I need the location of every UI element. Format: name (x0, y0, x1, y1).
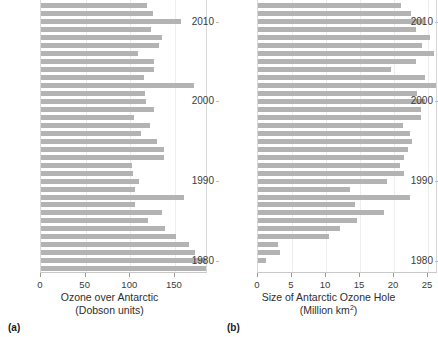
plot-area-b (257, 0, 437, 273)
x-axis-tick-label: 15 (354, 279, 365, 290)
x-axis-tick-label: 20 (388, 279, 399, 290)
bar (258, 59, 416, 64)
y-axis-tick-label: 1980 (192, 256, 214, 266)
bar (41, 242, 189, 247)
bar (41, 139, 157, 144)
bar (41, 210, 162, 215)
gridline (394, 0, 395, 272)
panel-a: 2010200019901980 050100150 Ozone over An… (0, 0, 219, 337)
bar (41, 266, 207, 271)
panel-b: 2010200019901980 0510152025 Size of Anta… (219, 0, 438, 337)
x-axis-tick-label: 25 (422, 279, 433, 290)
bar (258, 51, 434, 56)
x-axis-tick-label: 50 (79, 279, 90, 290)
bar (258, 19, 424, 24)
bar (258, 210, 384, 215)
bar (41, 3, 147, 8)
bar (41, 91, 145, 96)
bar (258, 195, 410, 200)
x-axis-title-b-line1: Size of Antarctic Ozone Hole (219, 291, 438, 304)
bar (258, 187, 350, 192)
x-axis-tick-label: 5 (288, 279, 293, 290)
bar (258, 155, 404, 160)
bar (41, 19, 181, 24)
bar (41, 27, 151, 32)
x-axis-tick (85, 273, 86, 277)
bar (41, 195, 184, 200)
bar (41, 187, 135, 192)
bar (258, 139, 412, 144)
bar (258, 147, 408, 152)
bar (258, 171, 404, 176)
bar (41, 67, 154, 72)
gridline (175, 0, 176, 272)
y-axis-tick-label: 1980 (411, 256, 433, 266)
x-axis-tick (359, 273, 360, 277)
bar (41, 258, 207, 263)
x-axis-tick-label: 10 (320, 279, 331, 290)
bar (258, 43, 422, 48)
bar (41, 107, 154, 112)
bar (258, 67, 391, 72)
bar (41, 171, 133, 176)
bar (258, 11, 411, 16)
bar (41, 179, 139, 184)
gridline (428, 0, 429, 272)
bar (258, 115, 421, 120)
superscript-two: 2 (350, 304, 354, 311)
y-axis-tick-label: 2000 (192, 96, 214, 106)
x-axis-tick (257, 273, 258, 277)
x-axis-tick (174, 273, 175, 277)
bar (41, 202, 135, 207)
bar (258, 202, 355, 207)
panel-tag-b: (b) (227, 322, 240, 333)
bar (41, 250, 195, 255)
bar (41, 163, 132, 168)
bar (41, 123, 150, 128)
y-axis-tick-label: 1990 (411, 176, 433, 186)
panel-tag-a: (a) (8, 322, 20, 333)
bar (258, 218, 357, 223)
bar (41, 11, 153, 16)
y-axis-tick-label: 2010 (411, 17, 433, 27)
x-axis-tick-label: 0 (254, 279, 259, 290)
x-axis-tick-label: 0 (37, 279, 42, 290)
x-axis-tick (291, 273, 292, 277)
bar (258, 258, 266, 263)
bar (258, 179, 387, 184)
bar (258, 3, 401, 8)
bar (41, 43, 159, 48)
bar (258, 75, 425, 80)
bar (258, 27, 416, 32)
x-axis-title-a-line1: Ozone over Antarctic (0, 291, 219, 304)
figure-container: 2010200019901980 050100150 Ozone over An… (0, 0, 438, 337)
bar (258, 107, 421, 112)
bar (41, 226, 165, 231)
bar (258, 35, 430, 40)
bar (41, 59, 154, 64)
bar (258, 83, 437, 88)
bar (258, 163, 400, 168)
x-axis-title-b-line2: (Million km2) (219, 304, 438, 317)
bar (41, 131, 141, 136)
bar (41, 83, 194, 88)
bar (41, 155, 164, 160)
x-axis-title-a-line2: (Dobson units) (0, 304, 219, 317)
y-axis-tick-label: 1990 (192, 176, 214, 186)
bar (258, 91, 417, 96)
gridline (360, 0, 361, 272)
x-axis-tick-label: 150 (166, 279, 182, 290)
bar (41, 115, 134, 120)
bar (258, 123, 403, 128)
bar (41, 147, 164, 152)
bar (41, 99, 146, 104)
y-axis-tick-label: 2010 (192, 17, 214, 27)
x-axis-tick (325, 273, 326, 277)
y-axis-tick-label: 2000 (411, 96, 433, 106)
bar (41, 51, 138, 56)
bar (41, 218, 148, 223)
x-axis-tick (129, 273, 130, 277)
bar (41, 75, 144, 80)
bar (258, 250, 280, 255)
plot-area-a (40, 0, 207, 273)
